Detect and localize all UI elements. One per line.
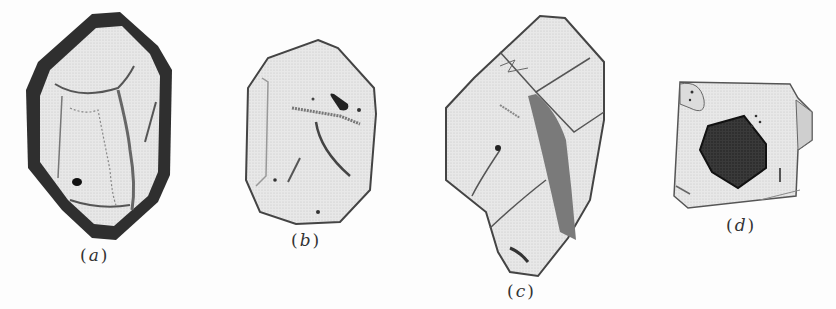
panel-label-d: (d) xyxy=(726,215,756,235)
label-letter: c xyxy=(516,281,528,301)
figure-canvas: (a) (b) (c) (d) xyxy=(0,0,836,309)
crystal-b xyxy=(246,40,376,224)
label-letter: b xyxy=(300,230,313,250)
panel-label-a: (a) xyxy=(80,245,109,265)
panel-label-c: (c) xyxy=(507,281,536,301)
crystal-d xyxy=(674,82,812,208)
panel-label-b: (b) xyxy=(291,230,321,250)
crystal-c xyxy=(446,16,604,276)
crystal-a xyxy=(26,12,172,240)
label-letter: d xyxy=(735,215,748,235)
label-letter: a xyxy=(89,245,101,265)
crystal-illustrations xyxy=(0,0,836,309)
